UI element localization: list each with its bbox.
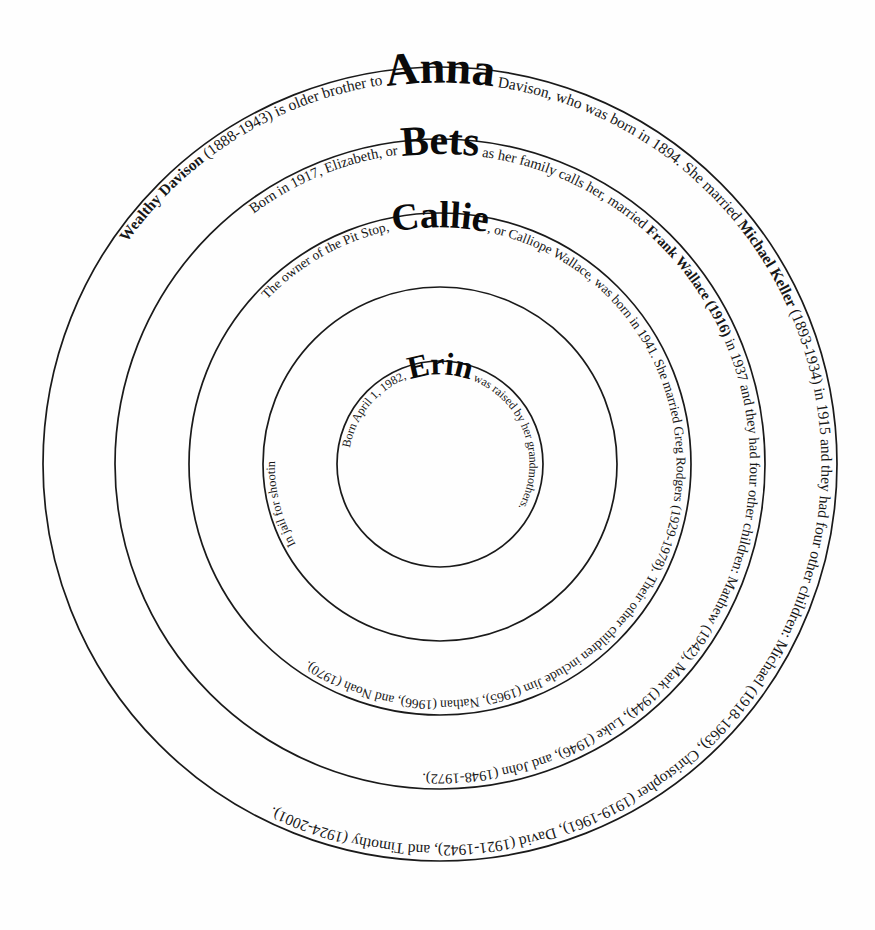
ring-callie-lead: The owner of the Pit Stop, (259, 218, 394, 301)
family-circle-diagram: Wealthy Davison (1888-1943) is older bro… (0, 0, 875, 930)
ring-anna-lead-bold: Wealthy Davison (116, 148, 210, 244)
ring-callie-name: Callie (388, 193, 492, 240)
ring-callie-trail: , or Calliope Wallace, was born in 1941.… (302, 220, 689, 712)
ring-deb-name: Deb (0, 0, 13, 10)
ring-anna-name: Anna (383, 41, 498, 96)
ring-bets-trail: as her family calls her, married (478, 143, 654, 234)
ring-bets-trail-bold: Frank Wallace (1916) (643, 222, 735, 340)
ring-erin-label: Born April 1, 1982, Erin was raised by h… (339, 345, 541, 512)
ring-deb-lead: Carl Ripplinger (1956-1986), her husband… (0, 0, 5, 3)
ring-text-layer: Wealthy Davison (1888-1943) is older bro… (0, 0, 835, 859)
ring-erin-lead: Born April 1, 1982, (339, 367, 411, 449)
ring-deb-label: In jail for shooting Carl Ripplinger (19… (0, 0, 298, 550)
ring-bets-trail2: in 1937 and they had four other children… (422, 333, 763, 787)
ring-bets-lead: Born in 1917, Elizabeth, or (246, 141, 402, 216)
concentric-rings-svg: Wealthy Davison (1888-1943) is older bro… (0, 0, 875, 930)
ring-deb-tail: In jail for shooting (0, 0, 298, 550)
ring-deb-trail: , or Deborah Rodgers, was born in 1964. … (0, 0, 5, 5)
ring-anna-trail-bold: Michael Keller (735, 216, 801, 310)
ring-deb-circle (263, 287, 617, 641)
ring-erin-name: Erin (404, 345, 478, 386)
ring-bets-name: Bets (399, 117, 482, 165)
ring-erin-trail: was raised by her grandmothers. (469, 369, 541, 512)
